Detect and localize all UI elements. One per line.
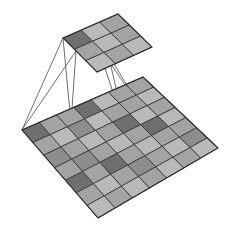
output-feature-map xyxy=(63,14,152,72)
diagram-canvas xyxy=(0,0,243,232)
input-feature-map xyxy=(22,77,218,218)
cnn-projection-diagram xyxy=(0,0,243,232)
